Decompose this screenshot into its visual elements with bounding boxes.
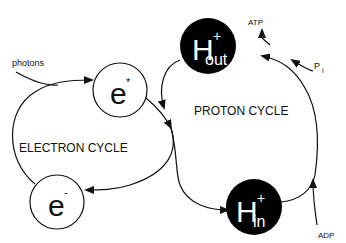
svg-text:in: in (253, 213, 265, 230)
e-star-node: e * (93, 63, 147, 117)
svg-text:e: e (110, 77, 127, 110)
proton-to-h-in (171, 128, 228, 210)
e-minus-node: e - (30, 175, 84, 229)
svg-text:-: - (64, 186, 68, 198)
h-in-node: H + in (226, 179, 282, 235)
electron-cycle-label: ELECTRON CYCLE (19, 141, 128, 155)
h-out-node: H + out (180, 18, 236, 74)
proton-h-out-to-membrane (162, 60, 180, 108)
svg-text:e: e (48, 189, 65, 222)
photosynthesis-cycle-diagram: e * e - H + out H + in photons ELECTRON … (0, 0, 346, 243)
electron-loop-right (86, 128, 173, 190)
photon-input-line (16, 72, 58, 85)
proton-cycle-label: PROTON CYCLE (194, 104, 288, 118)
pi-input-line (292, 60, 313, 71)
svg-text:+: + (257, 190, 265, 206)
atp-label: ATP (248, 18, 263, 27)
svg-text:*: * (126, 76, 131, 88)
proton-loop-right (262, 56, 318, 202)
adp-label: ADP (318, 231, 334, 240)
electron-loop-left (13, 80, 93, 184)
pi-subscript: i (322, 67, 324, 74)
atp-output-line (262, 30, 270, 45)
adp-input-line (313, 180, 317, 225)
photons-label: photons (12, 58, 45, 68)
electron-e-star-out (146, 98, 171, 128)
pi-label: P (314, 61, 320, 71)
svg-text:+: + (213, 28, 221, 44)
svg-text:out: out (205, 51, 228, 68)
